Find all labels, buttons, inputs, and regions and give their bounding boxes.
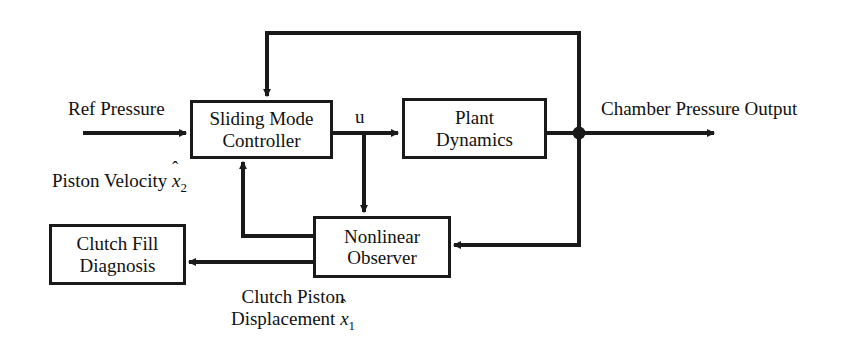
block-clutch-fill-diagnosis-line1: Clutch Fill <box>77 233 159 254</box>
block-sliding-mode-controller[interactable]: Sliding Mode Controller <box>190 100 333 159</box>
block-sliding-mode-controller-line2: Controller <box>222 130 300 151</box>
label-clutch-piston-line2: Displacement <box>231 308 335 329</box>
label-piston-velocity-text: Piston Velocity <box>52 170 167 191</box>
piston-velocity-hat-accent: ˆ <box>172 159 178 177</box>
block-clutch-fill-diagnosis[interactable]: Clutch Fill Diagnosis <box>49 224 186 285</box>
label-piston-velocity: Piston Velocity ˆ x2 <box>52 170 187 196</box>
block-nonlinear-observer-line2: Observer <box>347 247 417 268</box>
label-piston-velocity-symbol: ˆ x <box>172 170 180 192</box>
block-plant-dynamics[interactable]: Plant Dynamics <box>402 98 547 159</box>
block-nonlinear-observer[interactable]: Nonlinear Observer <box>313 216 451 278</box>
block-sliding-mode-controller-line1: Sliding Mode <box>210 108 314 129</box>
block-diagram: Sliding Mode Controller Plant Dynamics N… <box>0 0 862 344</box>
block-clutch-fill-diagnosis-line2: Diagnosis <box>80 255 156 276</box>
clutch-piston-hat-accent: ˆ <box>340 297 346 315</box>
label-ref-pressure: Ref Pressure <box>68 98 165 120</box>
clutch-piston-subscript: 1 <box>349 318 355 333</box>
piston-velocity-subscript: 2 <box>180 180 186 195</box>
block-nonlinear-observer-line1: Nonlinear <box>344 226 420 247</box>
label-clutch-piston-line1: Clutch Piston <box>193 286 393 308</box>
signal-junction-dot <box>573 127 586 140</box>
label-control-signal-u: u <box>355 106 365 128</box>
label-clutch-piston-displacement: Clutch Piston Displacement ˆ x1 <box>193 286 393 334</box>
wire-observer-to-controller <box>243 162 313 236</box>
label-clutch-piston-line2-wrap: Displacement ˆ x1 <box>193 308 393 334</box>
label-chamber-pressure-output: Chamber Pressure Output <box>601 98 797 120</box>
label-clutch-piston-symbol: ˆ x <box>340 308 348 330</box>
block-plant-dynamics-line2: Dynamics <box>436 129 513 150</box>
block-plant-dynamics-line1: Plant <box>455 107 494 128</box>
